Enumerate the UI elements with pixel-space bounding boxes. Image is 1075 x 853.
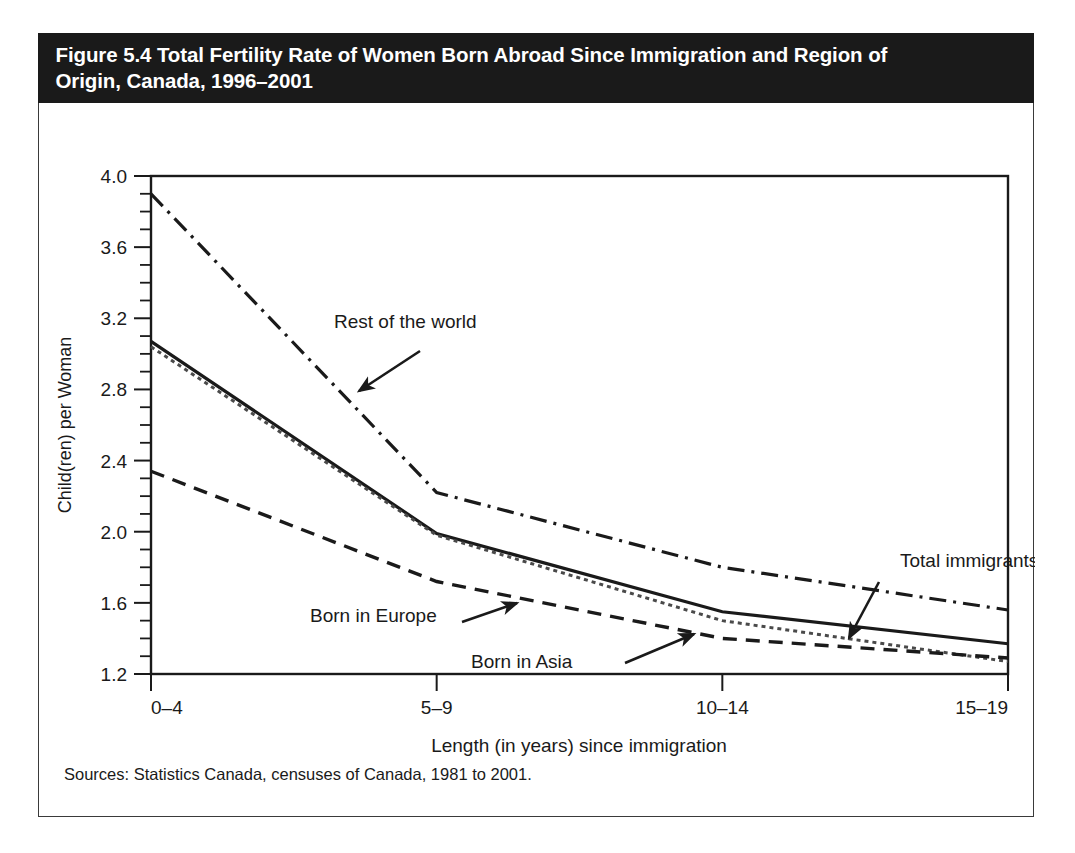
- annotation-label-born-in-asia: Born in Asia: [471, 651, 573, 672]
- x-tick-label: 0–4: [151, 697, 183, 718]
- annotation-arrow-born-in-europe: [462, 603, 517, 622]
- y-tick-label: 2.4: [101, 451, 128, 472]
- data-series-group: [151, 194, 1008, 662]
- series-line-total-immigrants: [151, 341, 1008, 643]
- y-axis-tick-labels: 4.0 3.6 3.2 2.8 2.4 2.0 1.6 1.2: [101, 166, 128, 685]
- y-tick-label: 1.6: [101, 593, 127, 614]
- y-tick-label: 1.2: [101, 664, 127, 685]
- annotation-arrow-born-in-asia: [625, 634, 694, 663]
- annotation-label-rest-of-the-world: Rest of the world: [334, 311, 477, 332]
- x-tick-label: 10–14: [696, 697, 749, 718]
- annotation-label-total-immigrants: Total immigrants: [900, 550, 1035, 571]
- y-axis-major-ticks: [134, 176, 151, 674]
- series-line-born-in-europe: [151, 471, 1008, 658]
- y-tick-label: 3.2: [101, 308, 127, 329]
- annotation-arrow-rest-of-the-world: [359, 351, 420, 391]
- x-axis-title: Length (in years) since immigration: [431, 735, 727, 756]
- annotation-arrow-total-immigrants: [849, 582, 879, 638]
- x-axis-ticks: [151, 674, 1008, 691]
- x-tick-label: 5–9: [421, 697, 453, 718]
- chart-canvas: 4.0 3.6 3.2 2.8 2.4 2.0 1.6 1.2 Child(re…: [39, 34, 1035, 818]
- figure-container: Figure 5.4 Total Fertility Rate of Women…: [38, 33, 1034, 817]
- y-tick-label: 2.8: [101, 379, 127, 400]
- annotation-label-born-in-europe: Born in Europe: [310, 605, 437, 626]
- y-tick-label: 4.0: [101, 166, 127, 187]
- figure-title: Figure 5.4 Total Fertility Rate of Women…: [56, 42, 1016, 94]
- series-line-rest-of-the-world: [151, 194, 1008, 610]
- y-tick-label: 2.0: [101, 522, 127, 543]
- sources-note: Sources: Statistics Canada, censuses of …: [64, 765, 532, 784]
- x-axis-tick-labels: 0–4 5–9 10–14 15–19: [151, 697, 1008, 718]
- y-axis-title: Child(ren) per Woman: [55, 337, 75, 514]
- figure-title-bar: Figure 5.4 Total Fertility Rate of Women…: [38, 33, 1034, 103]
- annotations-group: Rest of the world Total immigrants Born …: [310, 311, 1035, 672]
- y-axis-minor-ticks: [140, 194, 151, 656]
- plot-frame: [151, 176, 1008, 674]
- y-tick-label: 3.6: [101, 237, 127, 258]
- series-line-born-in-asia: [151, 347, 1008, 662]
- x-tick-label: 15–19: [955, 697, 1008, 718]
